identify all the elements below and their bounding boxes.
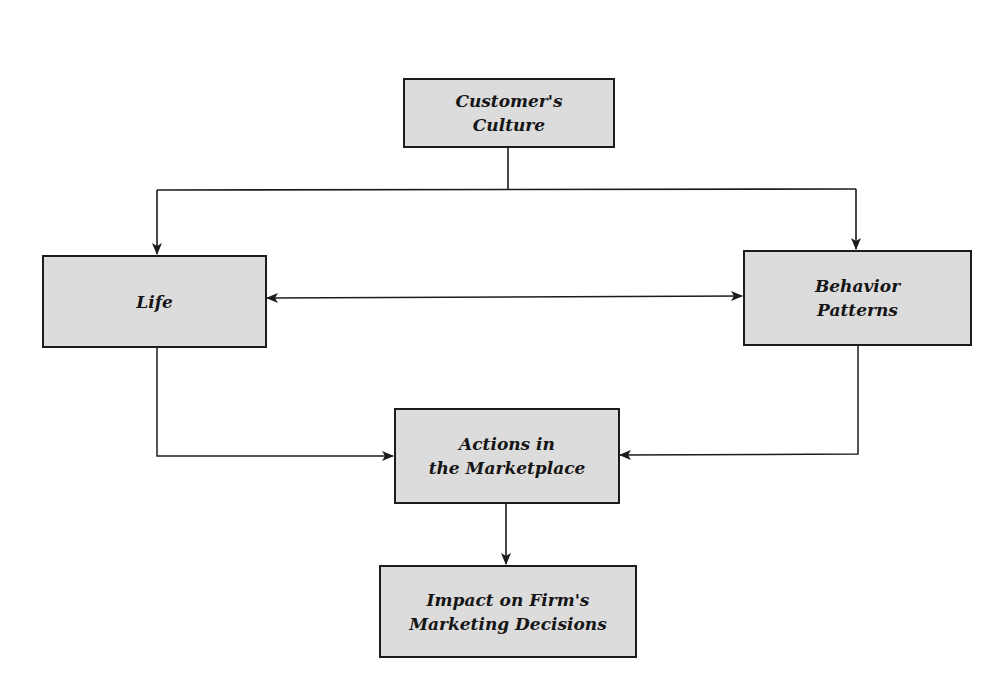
node-label: Actions in the Marketplace: [429, 432, 586, 480]
node-customers-culture: Customer's Culture: [403, 78, 615, 148]
node-impact-on-marketing-decisions: Impact on Firm's Marketing Decisions: [379, 565, 637, 658]
node-label: Customer's Culture: [455, 89, 562, 137]
node-behavior-patterns: Behavior Patterns: [743, 250, 972, 346]
flowchart-canvas: Customer's Culture Life Behavior Pattern…: [0, 0, 1003, 687]
edge-behavior-to-actions: [620, 345, 858, 455]
node-label: Behavior Patterns: [815, 274, 900, 322]
node-label: Life: [136, 290, 173, 314]
node-life: Life: [42, 255, 267, 348]
edge-life-behavior-bidirectional: [267, 296, 742, 298]
node-label: Impact on Firm's Marketing Decisions: [409, 588, 607, 636]
node-actions-in-marketplace: Actions in the Marketplace: [394, 408, 620, 504]
edge-culture-split: [157, 147, 856, 190]
edge-life-to-actions: [157, 347, 393, 456]
